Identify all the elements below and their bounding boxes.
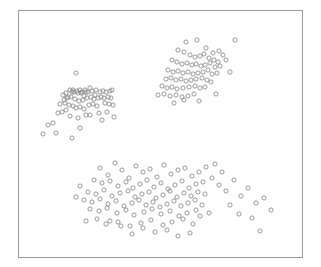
plot-canvas (0, 0, 321, 267)
scatter-plot-figure (0, 0, 321, 267)
plot-frame-border (19, 11, 303, 258)
